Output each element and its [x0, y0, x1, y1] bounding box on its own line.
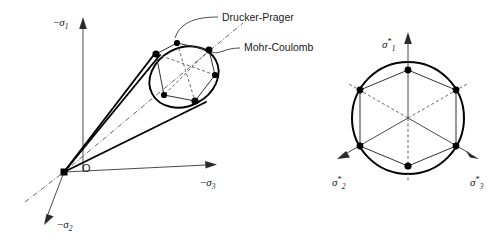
origin-label: O [82, 162, 91, 174]
left-diagram-group: O −σ1 −σ2 −σ3 Drucker-Prager Mohr-Coulom… [25, 11, 314, 233]
hexagon-vertex [174, 40, 180, 46]
leader-mohr-coulomb [211, 48, 240, 53]
axis-label-sigma1: −σ1 [53, 16, 68, 31]
hexagon-diagonal-2 [164, 50, 209, 95]
axis-label-sigma3-star: σ*3 [470, 174, 484, 191]
hexagon-vertex [357, 143, 364, 150]
hexagon-vertex [453, 143, 460, 150]
cone-apex-marker [61, 169, 68, 176]
yield-surface-figure: O −σ1 −σ2 −σ3 Drucker-Prager Mohr-Coulom… [0, 0, 495, 248]
hexagon-diagonal-1 [177, 43, 195, 101]
hexagon-vertex [453, 87, 460, 94]
leader-drucker-prager [175, 17, 218, 38]
hexagon-vertex [357, 87, 364, 94]
hexagon-diagonal-3 [156, 54, 215, 75]
axis-arrowhead-sigma1 [79, 17, 87, 29]
label-mohr-coulomb: Mohr-Coulomb [244, 41, 314, 53]
axis-arrowhead-sigma3 [205, 161, 217, 169]
hexagon-vertex [405, 67, 412, 74]
axis-label-sigma2-star: σ*2 [332, 174, 346, 191]
axis-label-sigma1-star: σ*1 [382, 36, 395, 53]
hexagon-vertex [404, 162, 411, 169]
cone-generator-upper-2 [64, 55, 160, 172]
axis-arrowhead-sigma2 [44, 214, 54, 225]
label-drucker-prager: Drucker-Prager [222, 11, 294, 23]
hexagon-vertex [161, 92, 167, 98]
hexagon-vertex [152, 50, 159, 57]
hexagon-vertex [212, 72, 218, 78]
axis-sigma3-star [408, 118, 479, 159]
axis-label-sigma2: −σ2 [57, 218, 73, 233]
hexagon-vertex [191, 97, 198, 104]
axis-label-sigma3: −σ3 [200, 176, 216, 191]
figure-root: O −σ1 −σ2 −σ3 Drucker-Prager Mohr-Coulom… [0, 0, 495, 248]
axis-arrowhead-sigma1-star [404, 32, 412, 44]
axis-sigma1-star [404, 32, 412, 118]
right-diagram-group: σ*1 σ*2 σ*3 [332, 32, 484, 191]
axis-sigma2-star [337, 118, 408, 159]
